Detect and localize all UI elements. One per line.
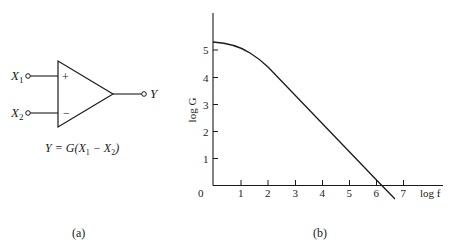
input1-terminal-icon: [26, 74, 31, 79]
svg-text:2: 2: [265, 187, 271, 199]
svg-text:6: 6: [374, 187, 380, 199]
caption-a: (a): [72, 226, 85, 240]
transfer-equation: Y = G(X1 − X2): [45, 141, 119, 157]
svg-text:4: 4: [203, 72, 209, 84]
svg-text:7: 7: [401, 187, 407, 199]
y-axis-label: log G: [186, 98, 198, 123]
caption-b: (b): [313, 226, 327, 240]
svg-text:5: 5: [203, 44, 209, 56]
gain-curve: [213, 42, 395, 199]
svg-text:3: 3: [203, 99, 209, 111]
svg-text:2: 2: [203, 126, 209, 138]
svg-text:5: 5: [347, 187, 353, 199]
plus-sign: +: [62, 70, 69, 84]
minus-sign: −: [63, 106, 70, 120]
figure-canvas: X1 X2 + − Y Y = G(X1 − X2) (a): [0, 0, 454, 250]
svg-text:1: 1: [238, 187, 244, 199]
y-tick-labels: 1 2 3 4 5: [203, 44, 209, 165]
gain-plot: 0 1 2 3 4 5 6 7 log f 1 2 3 4 5 log G: [186, 13, 443, 240]
input1-label: X1: [10, 68, 23, 85]
svg-text:0: 0: [198, 187, 204, 199]
input2-terminal-icon: [26, 111, 31, 116]
op-amp-diagram: X1 X2 + − Y Y = G(X1 − X2) (a): [10, 61, 159, 240]
svg-text:1: 1: [203, 153, 209, 165]
y-ticks: [213, 50, 218, 159]
svg-text:3: 3: [293, 187, 299, 199]
svg-text:4: 4: [320, 187, 326, 199]
input2-label: X2: [10, 105, 23, 122]
output-label: Y: [150, 86, 159, 101]
x-axis-label: log f: [420, 187, 441, 199]
x-tick-labels: 0 1 2 3 4 5 6 7: [198, 187, 407, 199]
output-terminal-icon: [142, 92, 147, 97]
